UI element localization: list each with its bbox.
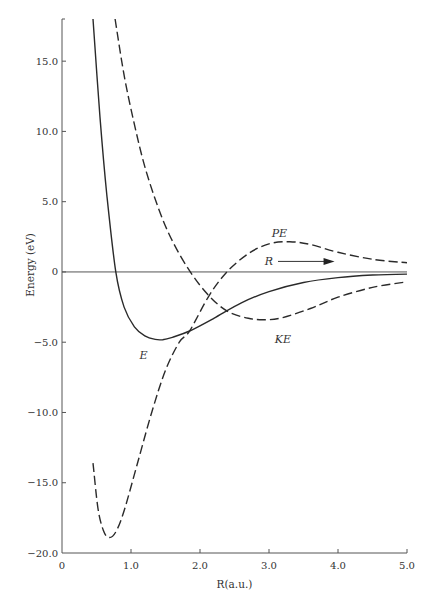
series-e-line [93,19,407,340]
x-tick-label: 5.0 [399,560,415,571]
y-tick-label: 0 [52,266,58,277]
y-tick-label: −15.0 [27,477,58,488]
label-e: E [138,349,147,362]
label-pe: PE [271,227,287,240]
x-tick-label: 0 [59,560,65,571]
label-r: R [264,255,273,268]
axes [62,19,407,553]
y-axis-title: Energy (eV) [24,233,36,297]
arrow-right-icon [324,258,335,265]
y-ticks: 15.010.05.00−5.0−10.0−15.0−20.0 [27,56,66,559]
y-tick-label: 5.0 [42,196,58,207]
x-ticks: 01.02.03.04.05.0 [59,549,415,571]
series-ke-line [115,19,407,320]
energy-chart: 01.02.03.04.05.0 15.010.05.00−5.0−10.0−1… [0,0,438,607]
x-tick-label: 1.0 [123,560,139,571]
y-tick-label: −10.0 [27,407,58,418]
series-group [93,19,407,538]
y-tick-label: −20.0 [27,548,58,559]
label-ke: KE [274,333,291,346]
x-tick-label: 2.0 [192,560,208,571]
x-axis-title: R(a.u.) [217,578,253,590]
annotations: EKEPER [138,227,334,362]
x-tick-label: 4.0 [330,560,346,571]
x-tick-label: 3.0 [261,560,277,571]
y-tick-label: −5.0 [34,337,58,348]
y-tick-label: 10.0 [36,126,58,137]
series-pe-line [93,242,407,538]
y-tick-label: 15.0 [36,56,58,67]
